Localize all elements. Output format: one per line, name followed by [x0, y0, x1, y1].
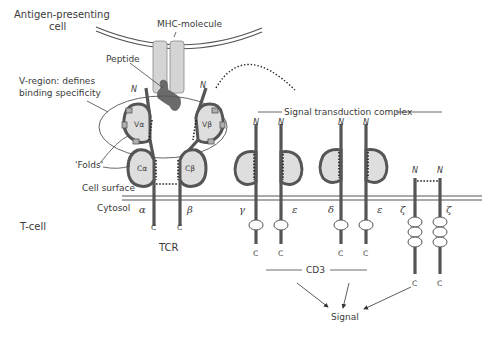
- delta-c-label: C: [338, 249, 343, 258]
- alpha-n-label: N: [131, 85, 137, 94]
- delta-n-label: N: [338, 118, 344, 127]
- arrow-cd3-right: [343, 283, 349, 308]
- signal-label: Signal: [331, 312, 359, 322]
- zeta1-label: ζ: [400, 204, 406, 215]
- epsilon1-n-label: N: [278, 118, 284, 127]
- arrow-cd3-left: [297, 283, 328, 307]
- beta-c-label: C: [177, 223, 182, 232]
- t-cell-membrane: [122, 196, 482, 200]
- v-beta-label: Vβ: [202, 120, 212, 129]
- gamma-label: γ: [239, 204, 245, 215]
- zeta-chain-2: [433, 178, 447, 274]
- cd3-label: CD3: [306, 265, 325, 275]
- tcr-beta-chain: [178, 88, 225, 226]
- apc-label-line1: Antigen-presenting: [14, 9, 110, 20]
- zeta1-n-label: N: [412, 166, 418, 175]
- cd3-gamma-chain: [235, 124, 263, 244]
- arrow-zeta: [364, 287, 411, 309]
- epsilon1-label: ε: [292, 204, 297, 215]
- alpha-label: α: [139, 204, 146, 215]
- cd3-epsilon-chain-2: [359, 124, 387, 244]
- zeta2-n-label: N: [437, 166, 443, 175]
- apc-label-line2: cell: [49, 21, 66, 32]
- association-arc: [216, 64, 295, 90]
- beta-label: β: [186, 204, 193, 215]
- beta-n-label: N: [200, 81, 206, 90]
- v-region-label-line2: binding specificity: [19, 88, 101, 98]
- epsilon1-c-label: C: [278, 249, 283, 258]
- epsilon2-n-label: N: [363, 118, 369, 127]
- gamma-c-label: C: [253, 249, 258, 258]
- zeta-chain-1: [408, 178, 422, 274]
- mhc-label: MHC-molecule: [157, 19, 223, 29]
- c-beta-label: Cβ: [185, 164, 195, 173]
- delta-label: δ: [328, 204, 334, 215]
- tcr-label: TCR: [158, 242, 179, 253]
- cytosol-label: Cytosol: [97, 203, 130, 213]
- cd3-delta-chain: [320, 124, 348, 244]
- gamma-n-label: N: [253, 118, 259, 127]
- c-alpha-label: Cα: [137, 164, 147, 173]
- cell-surface-label: Cell surface: [82, 183, 135, 193]
- epsilon2-label: ε: [377, 204, 382, 215]
- zeta1-c-label: C: [412, 279, 417, 288]
- zeta2-label: ζ: [446, 204, 452, 215]
- tcr-diagram: Antigen-presenting cell MHC-molecule Pep…: [0, 0, 493, 337]
- zeta2-c-label: C: [437, 279, 442, 288]
- folds-pointer-2: [103, 166, 130, 168]
- v-region-pointer: [87, 101, 108, 112]
- folds-label: 'Folds': [75, 160, 103, 170]
- alpha-c-label: C: [151, 223, 156, 232]
- v-alpha-label: Vα: [134, 120, 144, 129]
- cd3-epsilon-chain-1: [274, 124, 302, 244]
- v-region-label-line1: V-region: defines: [19, 76, 95, 86]
- peptide-label: Peptide: [106, 54, 140, 64]
- t-cell-label: T-cell: [19, 221, 46, 232]
- epsilon2-c-label: C: [363, 249, 368, 258]
- signal-complex-label: Signal transduction complex: [284, 107, 413, 117]
